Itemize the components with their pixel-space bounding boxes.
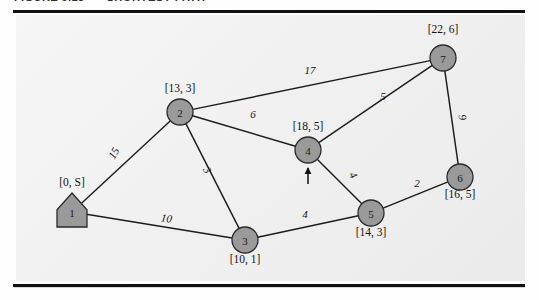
node-label-1: [0, S] — [59, 176, 85, 189]
edge-weight-2-7: 17 — [305, 64, 317, 76]
node-label-4: [18, 5] — [293, 120, 324, 133]
edge-weight-3-5: 4 — [302, 208, 308, 220]
node-5[interactable]: 5[14, 3] — [356, 200, 387, 239]
edge-4-7 — [319, 65, 433, 142]
edge-1-3 — [85, 214, 232, 238]
edge-2-3 — [186, 124, 239, 229]
node-id-4: 4 — [305, 145, 311, 157]
edge-weight-6-7: 9 — [457, 114, 470, 122]
node-id-5: 5 — [368, 208, 374, 220]
edge-3-5 — [258, 216, 359, 238]
node-2[interactable]: 2[13, 3] — [165, 82, 196, 125]
figure-container: FIGURE 9.13 SHORTEST PATH 1510361744529 … — [0, 0, 539, 300]
edge-weight-5-6: 2 — [414, 177, 420, 189]
node-3[interactable]: 3[10, 1] — [230, 227, 261, 266]
node-label-7: [22, 6] — [428, 23, 459, 36]
node-id-7: 7 — [440, 53, 446, 65]
edge-weight-1-3: 10 — [160, 211, 173, 224]
edge-6-7 — [445, 71, 458, 164]
node-id-6: 6 — [457, 172, 463, 184]
edge-weight-2-4: 6 — [250, 108, 256, 120]
pointer-arrow-icon — [305, 167, 312, 184]
graph-canvas: 1510361744529 1[0, S]2[13, 3]3[10, 1]4[1… — [0, 0, 539, 300]
edge-layer — [82, 61, 459, 238]
node-id-1: 1 — [69, 207, 75, 219]
edge-weight-4-7: 5 — [380, 90, 386, 102]
node-id-2: 2 — [177, 107, 183, 119]
node-id-3: 3 — [242, 235, 248, 247]
node-6[interactable]: 6[16, 5] — [445, 164, 476, 201]
node-7[interactable]: 7[22, 6] — [428, 23, 459, 71]
node-layer: 1[0, S]2[13, 3]3[10, 1]4[18, 5]5[14, 3]6… — [57, 23, 475, 266]
node-label-6: [16, 5] — [445, 188, 476, 201]
pointer-arrow-head — [305, 167, 312, 174]
node-label-5: [14, 3] — [356, 226, 387, 239]
edge-1-2 — [82, 121, 171, 203]
edge-weight-1-2: 15 — [106, 145, 122, 161]
node-4[interactable]: 4[18, 5] — [293, 120, 324, 163]
node-label-2: [13, 3] — [165, 82, 196, 95]
node-label-3: [10, 1] — [230, 253, 261, 266]
edge-4-5 — [317, 159, 362, 204]
edge-2-4 — [192, 116, 295, 147]
edge-weight-4-5: 4 — [347, 170, 360, 181]
